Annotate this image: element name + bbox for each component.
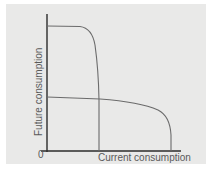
curve-2 (47, 97, 171, 151)
x-axis-label: Current consumption (98, 152, 191, 163)
origin-label: 0 (38, 149, 44, 160)
curve-1 (47, 26, 99, 151)
chart-svg: 0 Current consumption Future consumption (0, 0, 206, 179)
y-axis-label: Future consumption (33, 48, 44, 136)
